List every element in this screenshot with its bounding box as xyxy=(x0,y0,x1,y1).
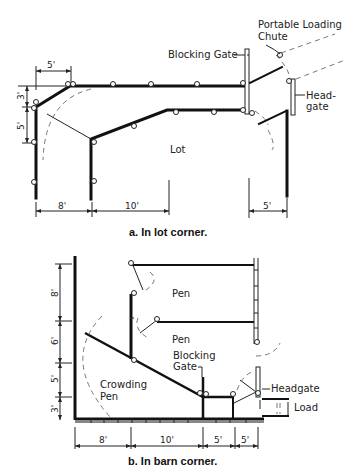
headgate-label-line2: gate xyxy=(306,101,329,112)
dim-left-5-label: 5' xyxy=(50,375,60,383)
dim-left-6-label: 6' xyxy=(50,337,60,345)
dimension-left: 3' 5' xyxy=(16,86,70,143)
blocking-gate-label-line2: Gate xyxy=(173,361,197,372)
crowding-pen-label-line2: Pen xyxy=(100,391,118,402)
lot-label: Lot xyxy=(170,144,186,155)
dimension-bottom-b: 8' 10' 5' 5' xyxy=(75,427,258,449)
portable-loading-chute-label-line2: Chute xyxy=(258,31,288,42)
blocking-gate-label-line1: Blocking xyxy=(173,350,216,361)
fence-posts-b xyxy=(129,261,261,397)
headgate-label-line1: Head- xyxy=(306,90,336,101)
dim-left-lower-label: 5' xyxy=(16,122,26,130)
load-label: Load xyxy=(294,402,318,413)
dim-bottom-right-label: 5' xyxy=(263,201,271,211)
caption-a: a. In lot corner. xyxy=(129,226,207,238)
portable-loading-chute-label-line1: Portable Loading xyxy=(258,19,342,30)
livestock-facility-diagram: 5' 3' 5' xyxy=(0,0,355,467)
dimension-left-b: 8' 6' 5' 3' xyxy=(50,264,72,420)
headgate-label: Headgate xyxy=(271,383,320,394)
crowding-pen-label-line1: Crowding xyxy=(100,379,147,390)
blocking-gate-label: Blocking Gate xyxy=(168,49,238,60)
dim-top-label: 5' xyxy=(47,60,55,70)
dim-bottom-5b-label: 5' xyxy=(241,435,249,445)
dim-left-upper-label: 3' xyxy=(16,92,26,100)
pen-lower-label: Pen xyxy=(172,334,190,345)
dim-bottom-10-label: 10' xyxy=(160,435,174,445)
figure-a-lot-corner: 5' 3' 5' xyxy=(16,19,345,238)
dim-left-8-label: 8' xyxy=(50,289,60,297)
figure-b-barn-corner: Pen Pen Blocking Gate Crowding Pen Headg… xyxy=(50,256,320,467)
dim-bottom-8-label: 8' xyxy=(99,435,107,445)
dim-bottom-mid-label: 10' xyxy=(125,201,139,211)
caption-b: b. In barn corner. xyxy=(128,455,217,467)
dim-bottom-5a-label: 5' xyxy=(214,435,222,445)
dim-left-3-label: 3' xyxy=(50,405,60,413)
dimension-bottom: 8' 10' 5' xyxy=(36,178,287,218)
dim-bottom-left-label: 8' xyxy=(58,201,66,211)
pen-upper-label: Pen xyxy=(172,288,190,299)
fence-lines xyxy=(36,49,295,199)
